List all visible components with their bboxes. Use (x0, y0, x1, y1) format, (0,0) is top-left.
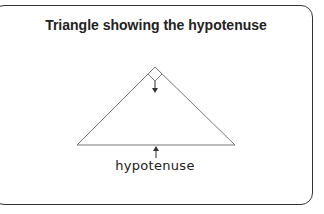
right-angle-marker (148, 67, 162, 81)
hypotenuse-label: hypotenuse (95, 158, 215, 173)
down-arrow-icon (152, 88, 158, 93)
up-arrow-icon (153, 146, 159, 151)
triangle (77, 67, 235, 145)
triangle-diagram (0, 0, 324, 214)
